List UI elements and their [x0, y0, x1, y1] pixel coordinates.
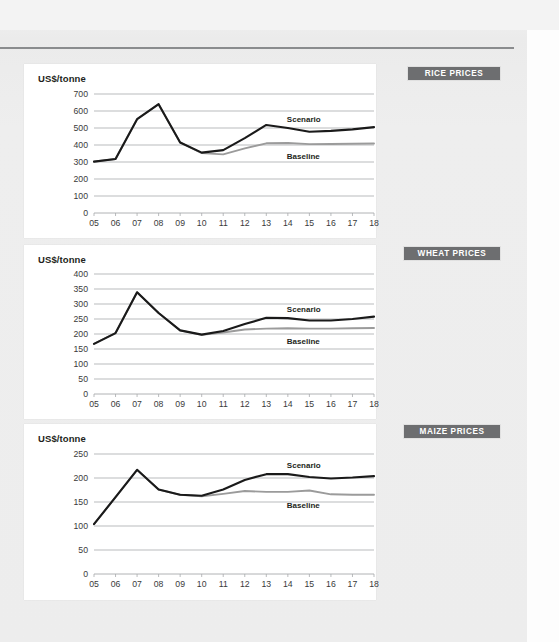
y-axis-tick-label: 150: [60, 344, 88, 354]
series-annotation-baseline: Baseline: [287, 501, 320, 510]
series-line-scenario: [94, 292, 374, 344]
ghost-text: [430, 118, 432, 127]
x-axis-tick-label: 09: [172, 218, 188, 228]
section-tag-rice: RICE PRICES: [408, 67, 500, 80]
page-header-band: [0, 0, 559, 30]
y-axis-tick-label: 250: [60, 314, 88, 324]
chart-panel-wheat: US$/tonne 050100150200250300350400050607…: [24, 245, 376, 419]
x-axis-tick-label: 06: [108, 579, 124, 589]
x-axis-tick-label: 11: [215, 399, 231, 409]
series-annotation-scenario: Scenario: [287, 461, 321, 470]
x-axis-tick-label: 17: [344, 579, 360, 589]
x-axis-tick-label: 06: [108, 218, 124, 228]
x-axis-tick-label: 07: [129, 218, 145, 228]
y-axis-tick-label: 0: [60, 389, 88, 399]
x-axis-tick-label: 11: [215, 218, 231, 228]
y-axis-tick-label: 350: [60, 284, 88, 294]
x-axis-tick-label: 18: [366, 218, 382, 228]
x-axis-tick-label: 11: [215, 579, 231, 589]
y-axis-tick-label: 200: [60, 174, 88, 184]
x-axis-tick-label: 05: [86, 579, 102, 589]
x-axis-tick-label: 10: [194, 399, 210, 409]
y-axis-tick-label: 200: [60, 329, 88, 339]
x-axis-tick-label: 15: [301, 399, 317, 409]
x-axis-tick-label: 17: [344, 218, 360, 228]
y-axis-tick-label: 400: [60, 140, 88, 150]
line-chart-wheat: 0501001502002503003504000506070809101112…: [24, 245, 376, 419]
x-axis-tick-label: 13: [258, 218, 274, 228]
section-tag-wheat: WHEAT PRICES: [404, 247, 500, 260]
x-axis-tick-label: 10: [194, 218, 210, 228]
x-axis-tick-label: 15: [301, 579, 317, 589]
x-axis-tick-label: 16: [323, 218, 339, 228]
x-axis-tick-label: 10: [194, 579, 210, 589]
x-axis-tick-label: 14: [280, 399, 296, 409]
y-axis-tick-label: 0: [60, 569, 88, 579]
y-axis-tick-label: 50: [60, 545, 88, 555]
series-annotation-baseline: Baseline: [287, 337, 320, 346]
x-axis-tick-label: 14: [280, 218, 296, 228]
x-axis-tick-label: 12: [237, 399, 253, 409]
chart-panel-rice: US$/tonne 010020030040050060070005060708…: [24, 64, 376, 238]
y-axis-tick-label: 50: [60, 374, 88, 384]
ghost-text: [418, 160, 420, 169]
x-axis-tick-label: 17: [344, 399, 360, 409]
x-axis-tick-label: 07: [129, 399, 145, 409]
x-axis-tick-label: 09: [172, 399, 188, 409]
x-axis-tick-label: 12: [237, 579, 253, 589]
chart-panel-maize: US$/tonne 050100150200250050607080910111…: [24, 424, 376, 600]
series-line-baseline: [94, 292, 374, 344]
y-axis-tick-label: 300: [60, 299, 88, 309]
x-axis-tick-label: 09: [172, 579, 188, 589]
x-axis-tick-label: 13: [258, 579, 274, 589]
y-axis-tick-label: 600: [60, 106, 88, 116]
x-axis-tick-label: 13: [258, 399, 274, 409]
x-axis-tick-label: 16: [323, 579, 339, 589]
x-axis-tick-label: 08: [151, 579, 167, 589]
x-axis-tick-label: 06: [108, 399, 124, 409]
y-axis-tick-label: 0: [60, 208, 88, 218]
line-chart-rice: 0100200300400500600700050607080910111213…: [24, 64, 376, 238]
y-axis-tick-label: 700: [60, 89, 88, 99]
y-axis-tick-label: 100: [60, 191, 88, 201]
x-axis-tick-label: 14: [280, 579, 296, 589]
x-axis-tick-label: 08: [151, 399, 167, 409]
series-annotation-baseline: Baseline: [287, 152, 320, 161]
y-axis-tick-label: 500: [60, 123, 88, 133]
x-axis-tick-label: 16: [323, 399, 339, 409]
y-axis-tick-label: 100: [60, 359, 88, 369]
x-axis-tick-label: 12: [237, 218, 253, 228]
x-axis-tick-label: 18: [366, 399, 382, 409]
y-axis-tick-label: 400: [60, 269, 88, 279]
y-axis-tick-label: 300: [60, 157, 88, 167]
x-axis-tick-label: 05: [86, 218, 102, 228]
series-annotation-scenario: Scenario: [287, 305, 321, 314]
page-right-margin-strip: [527, 0, 559, 642]
section-tag-maize: MAIZE PRICES: [404, 425, 500, 438]
series-line-baseline: [94, 104, 374, 161]
x-axis-tick-label: 05: [86, 399, 102, 409]
scanned-page: US$/tonne 010020030040050060070005060708…: [0, 0, 559, 642]
series-line-scenario: [94, 104, 374, 161]
y-axis-tick-label: 100: [60, 521, 88, 531]
header-divider-rule: [0, 47, 514, 49]
series-annotation-scenario: Scenario: [287, 115, 321, 124]
y-axis-tick-label: 200: [60, 473, 88, 483]
x-axis-tick-label: 15: [301, 218, 317, 228]
y-axis-tick-label: 250: [60, 449, 88, 459]
x-axis-tick-label: 07: [129, 579, 145, 589]
ghost-text: [410, 188, 412, 197]
line-chart-maize: 0501001502002500506070809101112131415161…: [24, 424, 376, 600]
x-axis-tick-label: 08: [151, 218, 167, 228]
x-axis-tick-label: 18: [366, 579, 382, 589]
y-axis-tick-label: 150: [60, 497, 88, 507]
